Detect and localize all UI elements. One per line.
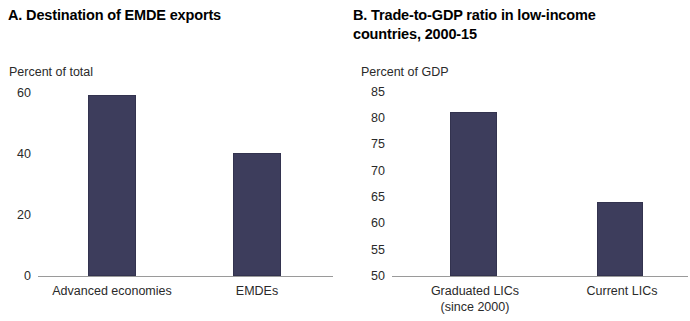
panel-a-title: A. Destination of EMDE exports	[8, 6, 338, 25]
panel-b-ytick-70: 70	[359, 164, 385, 178]
panel-b-axis-unit-label: Percent of GDP	[361, 65, 449, 79]
panel-b-ytick-85: 85	[359, 85, 385, 99]
panel-b-ytick-50: 50	[359, 269, 385, 283]
panel-a-ytick-0: 0	[5, 269, 31, 283]
panel-b-ytick-65: 65	[359, 190, 385, 204]
panel-a-ytick-20: 20	[5, 208, 31, 222]
panel-a-ytick-60: 60	[5, 86, 31, 100]
panel-a-xlabel-advanced-economies: Advanced economies	[22, 283, 202, 299]
panel-b-ytick-75: 75	[359, 137, 385, 151]
panel-b-ytick-60: 60	[359, 216, 385, 230]
panel-b-xlabel-graduated-lics: Graduated LICs (since 2000)	[395, 283, 555, 315]
panel-a-xlabel-emdes: EMDEs	[207, 283, 307, 299]
bar-current-lics	[597, 202, 643, 276]
chart-panel-b: B. Trade-to-GDP ratio in low-income coun…	[345, 0, 690, 321]
bar-graduated-lics	[450, 112, 497, 276]
panel-b-title: B. Trade-to-GDP ratio in low-income coun…	[353, 6, 688, 44]
panel-b-ytick-55: 55	[359, 243, 385, 257]
panel-a-ytick-40: 40	[5, 147, 31, 161]
panel-b-x-axis-line	[392, 276, 688, 277]
bar-advanced-economies	[88, 95, 136, 276]
bar-emdes	[233, 153, 281, 276]
panel-a-axis-unit-label: Percent of total	[9, 65, 93, 79]
chart-panel-a: A. Destination of EMDE exports Percent o…	[0, 0, 345, 321]
panel-a-x-axis-line	[38, 276, 333, 277]
panel-b-xlabel-current-lics: Current LICs	[567, 283, 677, 299]
panel-b-ytick-80: 80	[359, 111, 385, 125]
